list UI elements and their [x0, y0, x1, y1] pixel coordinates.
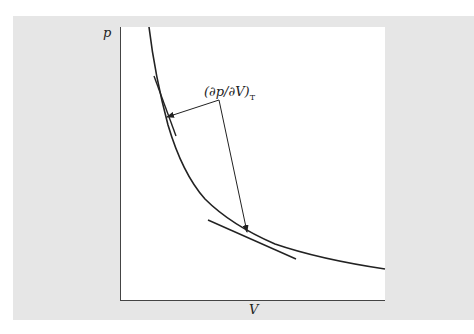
slope-annotation: (∂p/∂V)T [204, 84, 255, 102]
slope-annotation-main: (∂p/∂V) [204, 84, 250, 99]
isotherm-curve [149, 27, 385, 269]
tangent-line-2 [208, 220, 296, 259]
tangent-line-1 [154, 76, 176, 136]
slope-annotation-subscript: T [250, 93, 255, 102]
x-axis-label: V [249, 302, 258, 317]
annotation-arrow-2 [219, 100, 247, 232]
annotation-arrow-1 [167, 100, 219, 117]
y-axis-label: p [103, 25, 111, 40]
isotherm-diagram [0, 0, 474, 334]
